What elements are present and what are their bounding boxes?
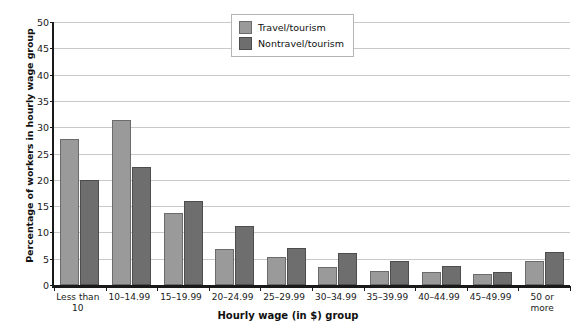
x-tick-mark xyxy=(106,286,107,291)
x-tick-mark xyxy=(415,286,416,291)
x-tick-label: 25–29.99 xyxy=(258,292,310,303)
plot-area: 05101520253035404550 xyxy=(52,22,570,288)
x-tick-mark xyxy=(54,286,55,291)
bar-chart: Percentage of workers in hourly wage gro… xyxy=(0,0,576,331)
x-tick-label: 45–49.99 xyxy=(465,292,517,303)
x-axis-ticks xyxy=(54,22,570,285)
x-axis-title: Hourly wage (in $) group xyxy=(0,310,576,321)
y-axis-title: Percentage of workers in hourly wage gro… xyxy=(24,1,35,291)
x-tick-label: 10–14.99 xyxy=(104,292,156,303)
x-tick-label: 35–39.99 xyxy=(362,292,414,303)
legend-item-travel: Travel/tourism xyxy=(239,19,344,35)
x-tick-mark xyxy=(209,286,210,291)
y-tick-label: 45 xyxy=(37,43,49,54)
legend-item-nontravel: Nontravel/tourism xyxy=(239,35,344,51)
y-tick-label: 0 xyxy=(43,280,49,291)
chart-legend: Travel/tourism Nontravel/tourism xyxy=(231,14,354,57)
x-tick-label: 15–19.99 xyxy=(155,292,207,303)
y-tick-label: 5 xyxy=(43,253,49,264)
legend-swatch-travel-icon xyxy=(239,21,252,34)
y-tick-label: 50 xyxy=(37,17,49,28)
y-tick-label: 25 xyxy=(37,148,49,159)
legend-label-nontravel: Nontravel/tourism xyxy=(258,38,344,49)
x-tick-label: 30–34.99 xyxy=(310,292,362,303)
legend-swatch-nontravel-icon xyxy=(239,37,252,50)
y-tick-label: 30 xyxy=(37,122,49,133)
x-tick-mark xyxy=(518,286,519,291)
y-tick-label: 15 xyxy=(37,201,49,212)
legend-label-travel: Travel/tourism xyxy=(258,22,326,33)
x-tick-label: 20–24.99 xyxy=(207,292,259,303)
y-tick-label: 35 xyxy=(37,95,49,106)
x-tick-mark xyxy=(157,286,158,291)
x-tick-label: 40–44.99 xyxy=(413,292,465,303)
x-tick-mark xyxy=(364,286,365,291)
y-tick-label: 40 xyxy=(37,69,49,80)
x-tick-mark xyxy=(312,286,313,291)
y-tick-label: 10 xyxy=(37,227,49,238)
x-tick-mark xyxy=(570,286,571,291)
y-tick-label: 20 xyxy=(37,174,49,185)
x-tick-mark xyxy=(260,286,261,291)
x-tick-mark xyxy=(467,286,468,291)
